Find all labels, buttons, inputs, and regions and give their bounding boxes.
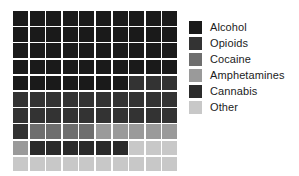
waffle-cell	[13, 43, 28, 58]
legend-item[interactable]: Other	[189, 101, 285, 115]
waffle-cell	[162, 92, 177, 107]
waffle-cell	[162, 60, 177, 75]
waffle-cell	[13, 108, 28, 123]
waffle-cell	[113, 157, 128, 172]
waffle-cell	[96, 60, 111, 75]
waffle-cell	[63, 141, 78, 156]
waffle-cell	[96, 124, 111, 139]
legend-label: Amphetamines	[210, 69, 285, 82]
legend-label: Cannabis	[210, 85, 257, 98]
legend-item[interactable]: Cannabis	[189, 85, 285, 99]
waffle-chart: AlcoholOpioidsCocaineAmphetaminesCannabi…	[0, 0, 299, 176]
waffle-cell	[63, 27, 78, 42]
waffle-cell	[146, 141, 161, 156]
waffle-cell	[63, 76, 78, 91]
waffle-cell	[63, 108, 78, 123]
waffle-cell	[46, 141, 61, 156]
waffle-cell	[162, 108, 177, 123]
waffle-cell	[96, 108, 111, 123]
waffle-cell	[162, 141, 177, 156]
legend-swatch-icon	[189, 37, 202, 50]
legend-label: Opioids	[210, 37, 248, 50]
waffle-cell	[146, 60, 161, 75]
waffle-cell	[79, 27, 94, 42]
waffle-cell	[79, 92, 94, 107]
waffle-cell	[129, 60, 144, 75]
waffle-cell	[146, 108, 161, 123]
waffle-cell	[63, 157, 78, 172]
waffle-cell	[146, 92, 161, 107]
waffle-cell	[46, 11, 61, 26]
waffle-cell	[146, 27, 161, 42]
waffle-cell	[46, 108, 61, 123]
waffle-cell	[46, 76, 61, 91]
waffle-cell	[30, 43, 45, 58]
waffle-cell	[96, 11, 111, 26]
waffle-cell	[30, 108, 45, 123]
waffle-cell	[46, 27, 61, 42]
waffle-cell	[63, 11, 78, 26]
legend-label: Alcohol	[210, 21, 247, 34]
waffle-cell	[129, 92, 144, 107]
waffle-cell	[79, 124, 94, 139]
waffle-cell	[30, 76, 45, 91]
waffle-cell	[79, 157, 94, 172]
waffle-cell	[30, 60, 45, 75]
legend-swatch-icon	[189, 69, 202, 82]
waffle-cell	[79, 76, 94, 91]
legend-swatch-icon	[189, 53, 202, 66]
waffle-cell	[162, 76, 177, 91]
waffle-cell	[96, 27, 111, 42]
waffle-cell	[129, 141, 144, 156]
waffle-cell	[162, 43, 177, 58]
legend-label: Cocaine	[210, 53, 251, 66]
waffle-cell	[63, 60, 78, 75]
waffle-cell	[79, 108, 94, 123]
waffle-cell	[96, 141, 111, 156]
waffle-cell	[113, 141, 128, 156]
waffle-cell	[79, 141, 94, 156]
waffle-cell	[146, 124, 161, 139]
waffle-cell	[79, 60, 94, 75]
waffle-cell	[129, 157, 144, 172]
waffle-cell	[79, 43, 94, 58]
waffle-cell	[13, 92, 28, 107]
waffle-cell	[146, 76, 161, 91]
waffle-cell	[162, 11, 177, 26]
legend-item[interactable]: Opioids	[189, 36, 285, 50]
waffle-grid	[13, 11, 177, 171]
waffle-cell	[96, 43, 111, 58]
waffle-cell	[113, 92, 128, 107]
waffle-cell	[113, 108, 128, 123]
waffle-cell	[129, 124, 144, 139]
waffle-cell	[13, 124, 28, 139]
legend-swatch-icon	[189, 101, 202, 114]
waffle-cell	[113, 124, 128, 139]
waffle-cell	[30, 92, 45, 107]
waffle-cell	[30, 124, 45, 139]
legend-swatch-icon	[189, 85, 202, 98]
waffle-cell	[162, 157, 177, 172]
waffle-cell	[46, 92, 61, 107]
waffle-cell	[129, 76, 144, 91]
waffle-cell	[113, 11, 128, 26]
legend-item[interactable]: Cocaine	[189, 52, 285, 66]
legend-item[interactable]: Alcohol	[189, 20, 285, 34]
waffle-cell	[63, 124, 78, 139]
legend-label: Other	[210, 101, 238, 114]
waffle-cell	[129, 108, 144, 123]
waffle-cell	[46, 60, 61, 75]
waffle-cell	[46, 124, 61, 139]
waffle-cell	[129, 11, 144, 26]
legend-item[interactable]: Amphetamines	[189, 69, 285, 83]
waffle-cell	[129, 27, 144, 42]
waffle-cell	[113, 27, 128, 42]
waffle-cell	[30, 141, 45, 156]
waffle-cell	[113, 76, 128, 91]
legend-swatch-icon	[189, 21, 202, 34]
waffle-cell	[96, 157, 111, 172]
waffle-cell	[63, 43, 78, 58]
waffle-cell	[162, 124, 177, 139]
waffle-cell	[162, 27, 177, 42]
waffle-cell	[13, 11, 28, 26]
